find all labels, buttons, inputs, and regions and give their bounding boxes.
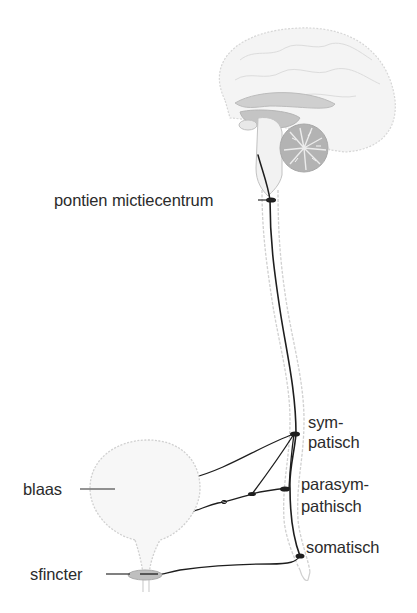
bladder-innervation-diagram: pontien mictiecentrum sym- patisch paras… — [0, 0, 417, 613]
parasympathetic-label-line1: parasym- — [301, 474, 369, 494]
sympathetic-label-line1: sym- — [308, 412, 343, 432]
sympathetic-node — [290, 431, 300, 436]
sphincter-shape — [128, 570, 162, 580]
somatic-node — [296, 553, 305, 558]
spinal-cord — [262, 190, 310, 581]
somatic-label: somatisch — [306, 537, 379, 557]
cerebellum — [280, 124, 328, 172]
pontine-micturition-center-label: pontien mictiecentrum — [54, 190, 213, 210]
diagram-artwork — [0, 0, 417, 613]
ganglion-node — [248, 492, 256, 496]
bladder-label: blaas — [23, 479, 62, 499]
sympathetic-label-line2: patisch — [308, 432, 360, 452]
parasympathetic-node — [280, 486, 290, 491]
sphincter-label: sfincter — [30, 564, 82, 584]
parasympathetic-label-line2: pathisch — [301, 496, 362, 516]
brain-illustration — [219, 28, 395, 196]
